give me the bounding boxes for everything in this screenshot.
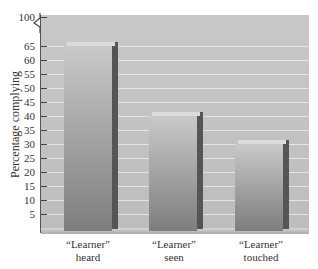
y-axis-label: Percentage complying: [8, 60, 23, 190]
y-tick-label: 55: [24, 69, 35, 80]
bar-top: [67, 42, 115, 46]
y-tick-label: 45: [24, 97, 35, 108]
bar-side: [283, 140, 289, 229]
x-tick-label-line: “Learner”: [221, 238, 301, 251]
x-tick-label-line: heard: [48, 251, 128, 264]
y-tick: [41, 74, 47, 75]
y-tick-label: 60: [24, 55, 35, 66]
y-tick: [41, 214, 47, 215]
y-tick-label: 40: [24, 111, 35, 122]
x-tick-label: “Learner”seen: [134, 238, 214, 264]
y-tick-label: 20: [24, 167, 35, 178]
y-tick: [41, 88, 47, 89]
bar-top: [152, 112, 200, 116]
y-tick-label: 100: [19, 12, 36, 23]
bar-top: [238, 140, 286, 144]
y-tick: [41, 116, 47, 117]
x-tick-label-line: seen: [134, 251, 214, 264]
y-tick-label: 65: [24, 41, 35, 52]
y-tick: [41, 46, 47, 47]
x-tick-label-line: touched: [221, 251, 301, 264]
y-tick-label: 50: [24, 83, 35, 94]
y-tick: [41, 158, 47, 159]
y-tick: [41, 186, 47, 187]
y-tick-label: 5: [30, 209, 36, 220]
y-tick: [41, 200, 47, 201]
y-tick: [41, 144, 47, 145]
x-tick-label-line: “Learner”: [134, 238, 214, 251]
y-tick: [41, 60, 47, 61]
bar: [64, 46, 112, 231]
x-tick-label: “Learner”touched: [221, 238, 301, 264]
bar: [235, 144, 283, 231]
bar-side: [197, 112, 203, 229]
y-tick-label: 25: [24, 153, 35, 164]
y-tick-label: 15: [24, 181, 35, 192]
y-tick-label: 30: [24, 139, 35, 150]
x-tick-label-line: “Learner”: [48, 238, 128, 251]
y-tick: [41, 17, 47, 18]
y-tick-label: 35: [24, 125, 35, 136]
x-tick-label: “Learner”heard: [48, 238, 128, 264]
y-tick: [41, 102, 47, 103]
y-tick: [41, 130, 47, 131]
bar: [149, 116, 197, 231]
y-tick: [41, 172, 47, 173]
y-tick-label: 10: [24, 195, 35, 206]
bar-side: [112, 42, 118, 229]
